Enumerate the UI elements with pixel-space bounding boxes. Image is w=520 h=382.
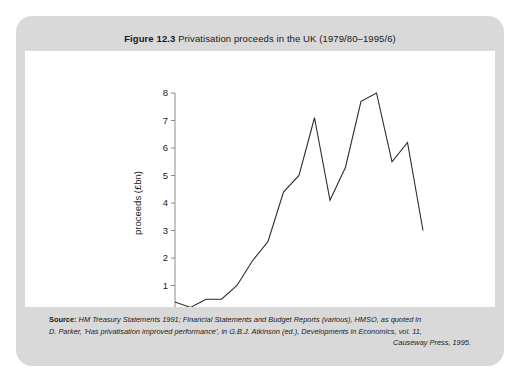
page-title: Figure 12.3 Privatisation proceeds in th…: [124, 33, 396, 44]
figure-title-text: Privatisation proceeds in the UK (1979/8…: [178, 33, 396, 44]
chart-axes: [175, 93, 423, 313]
figure-card: Figure 12.3 Privatisation proceeds in th…: [16, 16, 504, 366]
chart-ticks: [171, 93, 423, 317]
y-tick-label: 7: [163, 115, 168, 126]
caption-line-2: D. Parker, 'Has privatisation improved p…: [49, 326, 471, 338]
y-tick-label: 8: [163, 87, 168, 98]
y-axis-title: proceeds (£bn): [132, 171, 143, 235]
y-tick-label: 3: [163, 225, 168, 236]
y-tick-label: 1: [163, 280, 168, 291]
figure-title-bar: Figure 12.3 Privatisation proceeds in th…: [25, 25, 495, 51]
data-series-line: [175, 93, 423, 308]
y-tick-label: 4: [163, 197, 168, 208]
figure-caption-bar: Source: HM Treasury Statements 1991; Fin…: [25, 307, 495, 357]
y-tick-label: 2: [163, 252, 168, 263]
figure-label: Figure 12.3: [124, 33, 175, 44]
y-tick-label: 5: [163, 170, 168, 181]
caption-line-3: Causeway Press, 1995.: [49, 337, 471, 349]
y-tick-label: 6: [163, 142, 168, 153]
line-chart: 0123456781979198119831985198719891991199…: [25, 51, 495, 325]
chart-tick-labels: 0123456781979198119831985198719891991199…: [163, 87, 434, 325]
chart-plot-area: 0123456781979198119831985198719891991199…: [25, 51, 495, 307]
caption-line-1: Source: HM Treasury Statements 1991; Fin…: [49, 314, 471, 326]
source-label: Source:: [49, 315, 77, 324]
caption-text-1: HM Treasury Statements 1991; Financial S…: [79, 315, 421, 324]
